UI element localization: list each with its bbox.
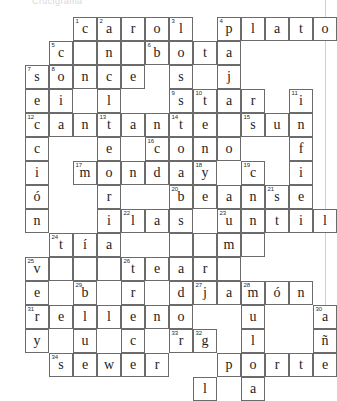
crossword-cell[interactable] [49,257,73,281]
crossword-cell[interactable]: d [145,161,169,185]
crossword-cell[interactable]: e [121,305,145,329]
crossword-cell[interactable] [97,257,121,281]
crossword-cell[interactable]: e [121,65,145,89]
crossword-cell[interactable]: n [145,305,169,329]
crossword-cell[interactable]: l [97,89,121,113]
crossword-cell[interactable]: n [193,137,217,161]
crossword-cell[interactable]: r [265,353,289,377]
crossword-cell[interactable]: m [217,233,241,257]
crossword-cell[interactable]: n [289,281,313,305]
crossword-cell[interactable]: o [313,17,337,41]
crossword-cell[interactable]: a [169,161,193,185]
crossword-cell[interactable]: e [193,185,217,209]
crossword-cell[interactable]: s [169,209,193,233]
crossword-cell[interactable]: 18y [193,161,217,185]
crossword-cell[interactable]: a [217,185,241,209]
crossword-cell[interactable]: 31r [25,305,49,329]
crossword-cell[interactable]: 10t [193,89,217,113]
crossword-cell[interactable]: 25v [25,257,49,281]
crossword-cell[interactable]: i [289,209,313,233]
crossword-cell[interactable]: 16c [145,137,169,161]
crossword-cell[interactable]: 17m [73,161,97,185]
crossword-cell[interactable]: n [73,65,97,89]
crossword-cell[interactable]: c [25,137,49,161]
crossword-cell[interactable]: e [25,281,49,305]
crossword-cell[interactable] [73,41,97,65]
crossword-cell[interactable]: t [265,209,289,233]
crossword-cell[interactable]: r [121,281,145,305]
crossword-cell[interactable]: e [121,353,145,377]
crossword-cell[interactable]: e [49,305,73,329]
crossword-cell[interactable] [121,41,145,65]
crossword-cell[interactable]: 26t [121,257,145,281]
crossword-cell[interactable]: n [97,41,121,65]
crossword-cell[interactable] [73,257,97,281]
crossword-cell[interactable]: t [193,41,217,65]
crossword-cell[interactable]: i [25,161,49,185]
crossword-cell[interactable]: e [25,89,49,113]
crossword-cell[interactable]: r [121,17,145,41]
crossword-cell[interactable]: 23u [217,209,241,233]
crossword-cell[interactable]: 27j [193,281,217,305]
crossword-cell[interactable]: 3l [169,17,193,41]
crossword-cell[interactable] [217,113,241,137]
crossword-cell[interactable]: 7s [25,65,49,89]
crossword-cell[interactable]: a [145,209,169,233]
crossword-cell[interactable]: e [97,137,121,161]
crossword-cell[interactable]: 30a [313,305,337,329]
crossword-cell[interactable]: j [217,65,241,89]
crossword-cell[interactable]: t [289,353,313,377]
crossword-cell[interactable]: a [241,377,265,401]
crossword-cell[interactable]: o [217,137,241,161]
crossword-cell[interactable]: u [73,329,97,353]
crossword-cell[interactable]: a [265,17,289,41]
crossword-cell[interactable] [193,233,217,257]
crossword-cell[interactable]: 33r [169,329,193,353]
crossword-cell[interactable]: i [49,89,73,113]
crossword-cell[interactable]: 24t [49,233,73,257]
crossword-cell[interactable]: u [241,305,265,329]
crossword-cell[interactable]: 2a [97,17,121,41]
crossword-cell[interactable]: r [97,185,121,209]
crossword-cell[interactable]: e [73,353,97,377]
crossword-cell[interactable]: i [97,209,121,233]
crossword-cell[interactable]: 14t [169,113,193,137]
crossword-cell[interactable]: 19c [241,161,265,185]
crossword-cell[interactable]: a [49,113,73,137]
crossword-cell[interactable]: a [217,281,241,305]
crossword-cell[interactable]: f [289,137,313,161]
crossword-cell[interactable]: a [217,89,241,113]
crossword-cell[interactable]: e [193,113,217,137]
crossword-cell[interactable]: 11i [289,89,313,113]
crossword-cell[interactable]: y [25,329,49,353]
crossword-cell[interactable]: ñ [313,329,337,353]
crossword-cell[interactable]: e [289,185,313,209]
crossword-cell[interactable]: o [97,161,121,185]
crossword-cell[interactable]: r [145,353,169,377]
crossword-cell[interactable]: 5c [49,41,73,65]
crossword-cell[interactable]: í [73,233,97,257]
crossword-cell[interactable]: l [241,329,265,353]
crossword-cell[interactable]: n [73,113,97,137]
crossword-cell[interactable]: 20b [169,185,193,209]
crossword-cell[interactable]: s [169,65,193,89]
crossword-cell[interactable]: e [313,353,337,377]
crossword-cell[interactable]: n [241,185,265,209]
crossword-cell[interactable]: 15s [241,113,265,137]
crossword-cell[interactable]: o [169,137,193,161]
crossword-cell[interactable]: 8o [49,65,73,89]
crossword-cell[interactable]: o [145,17,169,41]
crossword-cell[interactable]: a [121,113,145,137]
crossword-cell[interactable]: 32g [193,329,217,353]
crossword-cell[interactable]: n [121,161,145,185]
crossword-cell[interactable]: 9s [169,89,193,113]
crossword-cell[interactable]: o [169,41,193,65]
crossword-cell[interactable]: t [289,17,313,41]
crossword-cell[interactable]: 28m [241,281,265,305]
crossword-cell[interactable]: r [193,257,217,281]
crossword-cell[interactable]: n [289,113,313,137]
crossword-cell[interactable] [217,257,241,281]
crossword-cell[interactable]: o [241,353,265,377]
crossword-cell[interactable]: ó [25,185,49,209]
